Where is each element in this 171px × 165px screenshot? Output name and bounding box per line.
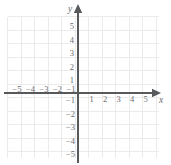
x-tick-label: 4 — [130, 94, 135, 104]
x-tick-label: −2 — [53, 84, 62, 94]
y-tick-label: 5 — [70, 21, 74, 31]
y-tick-label: 2 — [70, 62, 74, 72]
coordinate-grid-figure: −5 −4 −3 −2 −1 1 2 3 4 5 5 4 3 2 1 −1 −2… — [0, 0, 171, 165]
y-axis-label: y — [67, 4, 73, 14]
arrow-up-icon — [74, 4, 82, 13]
x-tick-label: −1 — [66, 84, 75, 94]
coordinate-plane-svg: −5 −4 −3 −2 −1 1 2 3 4 5 5 4 3 2 1 −1 −2… — [0, 0, 171, 165]
y-tick-label: 3 — [70, 48, 74, 58]
x-tick-label: 3 — [116, 94, 120, 104]
y-tick-label: −1 — [66, 95, 75, 105]
y-axis-tick-labels-positive: 5 4 3 2 1 — [70, 21, 75, 85]
y-tick-label: −3 — [66, 122, 75, 132]
x-tick-label: 5 — [143, 94, 147, 104]
y-tick-label: 4 — [70, 35, 75, 45]
x-tick-label: −4 — [26, 84, 36, 94]
x-axis-label: x — [158, 95, 164, 105]
y-tick-label: 1 — [70, 75, 74, 85]
x-tick-label: 1 — [89, 94, 93, 104]
x-axis-tick-labels-positive: 1 2 3 4 5 — [89, 94, 147, 104]
x-tick-label: −3 — [39, 84, 48, 94]
x-tick-label: 2 — [103, 94, 107, 104]
y-tick-label: −2 — [66, 109, 75, 119]
x-tick-label: −5 — [12, 84, 21, 94]
y-axis-tick-labels-negative: −1 −2 −3 −4 −5 — [66, 95, 76, 159]
y-tick-label: −5 — [66, 149, 75, 159]
y-tick-label: −4 — [66, 136, 76, 146]
